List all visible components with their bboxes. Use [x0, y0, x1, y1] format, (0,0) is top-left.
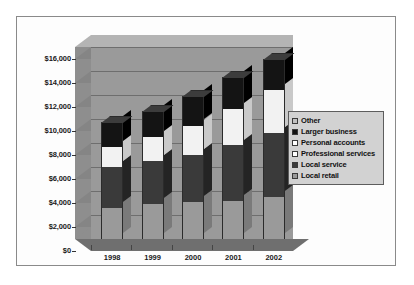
y-axis-tick-label: $10,000: [17, 127, 71, 135]
gridline-bevel: [75, 71, 91, 83]
x-axis-tick-mark: [253, 245, 254, 250]
legend-item-label: Larger business: [301, 127, 357, 136]
bar-segment: [182, 126, 204, 155]
bar-segment-side: [123, 155, 131, 202]
y-axis-tick-mark: [72, 131, 76, 132]
bar-segment: [142, 137, 164, 161]
bar-segment-side: [204, 190, 212, 233]
y-axis-tick-mark: [72, 107, 76, 108]
x-axis-tick-label: 2000: [172, 253, 214, 262]
chart-frame: $0$2,000$4,000$6,000$8,000$10,000$12,000…: [16, 16, 396, 266]
bar-segment-side: [285, 185, 293, 233]
x-axis-tick-label: 2001: [212, 253, 254, 262]
legend-item-label: Other: [301, 116, 320, 125]
bar-segment: [263, 59, 285, 90]
legend-item[interactable]: Local service: [292, 159, 379, 170]
gridline: [91, 47, 293, 48]
gridline-bevel: [75, 143, 91, 155]
y-axis-tick-mark: [72, 83, 76, 84]
y-axis-tick-label: $16,000: [17, 55, 71, 63]
plot-ceiling-bevel: [75, 35, 91, 47]
legend-swatch-icon: [292, 140, 298, 146]
bar-segment: [101, 122, 123, 147]
y-axis-tick-label: $4,000: [17, 199, 71, 207]
plot-left-wall-bevel: [75, 227, 91, 239]
plot-floor: [91, 239, 293, 251]
x-axis-tick-label: 1999: [132, 253, 174, 262]
bar-segment: [222, 77, 244, 109]
y-axis-tick-mark: [72, 59, 76, 60]
y-axis-tick-label: $14,000: [17, 79, 71, 87]
bar-segment-side: [204, 114, 212, 149]
bar-segment-side: [244, 189, 252, 233]
bar-segment: [142, 161, 164, 204]
legend-item-label: Professional services: [301, 149, 375, 158]
plot-floor-left-bevel: [75, 239, 91, 251]
y-axis-tick-label: $0: [17, 247, 71, 255]
gridline-bevel: [75, 191, 91, 203]
bar-segment: [263, 90, 285, 133]
gridline-bevel: [75, 95, 91, 107]
bar-segment: [222, 145, 244, 201]
x-axis-tick-mark: [212, 245, 213, 250]
y-axis-tick-mark: [72, 155, 76, 156]
x-axis-tick-mark: [131, 245, 132, 250]
legend-item[interactable]: Larger business: [292, 126, 379, 137]
bar-segment-side: [123, 196, 131, 233]
plot-floor-right-bevel: [293, 239, 309, 251]
bar-segment: [142, 111, 164, 137]
plot-ceiling: [91, 35, 293, 47]
y-axis-tick-mark: [72, 251, 76, 252]
legend-swatch-icon: [292, 162, 298, 168]
bar-segment: [222, 109, 244, 146]
chart-legend[interactable]: OtherLarger businessPersonal accountsPro…: [288, 111, 384, 185]
gridline-bevel: [75, 167, 91, 179]
y-axis-tick-mark: [72, 203, 76, 204]
legend-item-label: Local service: [301, 160, 347, 169]
chart-canvas: $0$2,000$4,000$6,000$8,000$10,000$12,000…: [17, 17, 397, 267]
gridline-bevel: [75, 215, 91, 227]
legend-swatch-icon: [292, 118, 298, 124]
bar-segment-side: [204, 143, 212, 196]
y-axis-tick-mark: [72, 227, 76, 228]
bar-segment-side: [164, 149, 172, 198]
bar-segment: [101, 167, 123, 208]
bar-segment: [263, 197, 285, 239]
gridline-bevel: [75, 47, 91, 59]
x-axis-tick-mark: [91, 245, 92, 250]
legend-item-label: Local retail: [301, 171, 339, 180]
legend-swatch-icon: [292, 129, 298, 135]
y-axis-tick-label: $6,000: [17, 175, 71, 183]
x-axis-tick-label: 1998: [91, 253, 133, 262]
legend-item[interactable]: Local retail: [292, 170, 379, 181]
y-axis-tick-label: $12,000: [17, 103, 71, 111]
bar-segment: [263, 133, 285, 197]
bar-segment: [101, 208, 123, 239]
bar-segment: [182, 202, 204, 239]
y-axis-tick-mark: [72, 179, 76, 180]
bar-segment-side: [244, 97, 252, 140]
bar-segment: [182, 96, 204, 125]
y-axis-tick-label: $8,000: [17, 151, 71, 159]
bar-segment: [142, 204, 164, 239]
legend-item[interactable]: Personal accounts: [292, 137, 379, 148]
bar-segment-side: [244, 133, 252, 195]
gridline-bevel: [75, 119, 91, 131]
legend-item[interactable]: Other: [292, 115, 379, 126]
bar-segment: [101, 147, 123, 167]
x-axis-tick-mark: [172, 245, 173, 250]
legend-swatch-icon: [292, 151, 298, 157]
legend-item-label: Personal accounts: [301, 138, 365, 147]
y-axis-tick-label: $2,000: [17, 223, 71, 231]
legend-item[interactable]: Professional services: [292, 148, 379, 159]
bar-segment-side: [164, 192, 172, 233]
bar-segment: [222, 201, 244, 239]
legend-swatch-icon: [292, 173, 298, 179]
x-axis-tick-label: 2002: [253, 253, 295, 262]
bar-segment: [182, 155, 204, 202]
